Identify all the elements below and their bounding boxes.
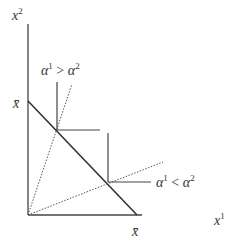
budget-line: [28, 101, 137, 215]
annotation-lower: α1 < α2: [156, 173, 195, 190]
y-intercept-label: x̄: [12, 96, 20, 111]
ray-lower: [28, 162, 163, 215]
ray-upper: [28, 84, 72, 215]
x-intercept-label: x̄: [131, 224, 139, 239]
annotation-upper: α1 > α2: [41, 61, 80, 78]
leontief-diagram: x2 x1 x̄ x̄ α1 > α2 α1 < α2: [0, 0, 242, 244]
x-axis-label: x1: [213, 211, 225, 228]
y-axis-label: x2: [11, 6, 23, 23]
